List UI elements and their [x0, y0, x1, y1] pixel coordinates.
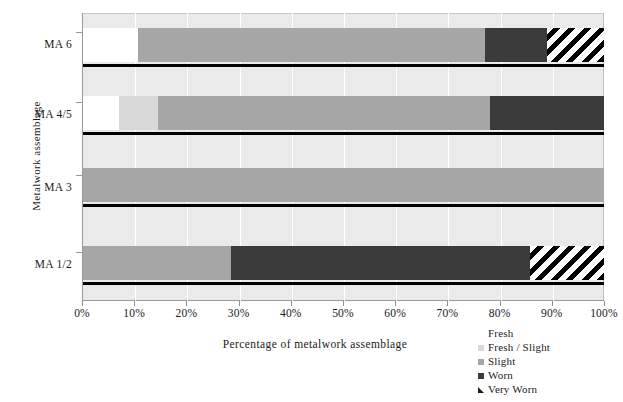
segment-worn — [490, 96, 604, 130]
segment-slight — [158, 96, 490, 130]
x-tick-mark-60 — [395, 301, 396, 306]
y-tick-label-ma-4-5: MA 4/5 — [0, 108, 72, 120]
y-tick-label-ma-1-2: MA 1/2 — [0, 258, 72, 270]
x-tick-label-90: 90% — [522, 307, 582, 319]
legend-item-fresh-slight: Fresh / Slight — [478, 341, 618, 355]
segment-fresh-slight — [119, 96, 158, 130]
segment-fresh — [83, 96, 119, 130]
y-tick-mark-ma-1-2 — [76, 252, 82, 253]
legend-item-fresh: Fresh — [478, 327, 618, 341]
x-tick-mark-10 — [134, 301, 135, 306]
x-tick-mark-50 — [343, 301, 344, 306]
legend-swatch-very-worn-icon — [478, 387, 484, 393]
legend-label-fresh: Fresh — [488, 327, 513, 339]
x-tick-label-30: 30% — [209, 307, 269, 319]
legend: Fresh Fresh / Slight Slight Worn Very Wo… — [478, 327, 618, 397]
x-tick-label-70: 70% — [417, 307, 477, 319]
y-axis-title: Metalwork assemblage — [30, 56, 42, 256]
legend-item-very-worn: Very Worn — [478, 383, 618, 397]
x-tick-label-50: 50% — [313, 307, 373, 319]
bar-ma-1-2 — [83, 246, 604, 280]
bar-ma-6 — [83, 28, 604, 62]
x-tick-mark-0 — [82, 301, 83, 306]
segment-slight — [138, 28, 486, 62]
plot-area — [82, 13, 604, 301]
segment-very-worn — [547, 28, 604, 62]
segment-worn — [485, 28, 546, 62]
baseline-ma-1-2 — [83, 282, 604, 285]
legend-item-worn: Worn — [478, 369, 618, 383]
legend-swatch-slight-icon — [478, 359, 484, 365]
stacked-bar-chart: Metalwork assemblage — [0, 0, 623, 402]
x-tick-mark-70 — [447, 301, 448, 306]
segment-slight — [83, 246, 231, 280]
y-tick-mark-ma-3 — [76, 175, 82, 176]
x-tick-mark-30 — [239, 301, 240, 306]
x-tick-mark-90 — [552, 301, 553, 306]
x-tick-mark-80 — [500, 301, 501, 306]
x-tick-mark-100 — [604, 301, 605, 306]
y-tick-label-ma-6: MA 6 — [0, 38, 72, 50]
legend-label-very-worn: Very Worn — [488, 383, 537, 395]
legend-swatch-fresh-icon — [478, 331, 484, 337]
legend-label-worn: Worn — [488, 369, 513, 381]
x-tick-label-100: 100% — [574, 307, 623, 319]
segment-fresh — [83, 28, 138, 62]
bar-ma-3 — [83, 168, 604, 202]
y-tick-label-ma-3: MA 3 — [0, 181, 72, 193]
x-tick-label-0: 0% — [52, 307, 112, 319]
x-tick-label-40: 40% — [261, 307, 321, 319]
bar-group-ma-3 — [83, 135, 604, 207]
segment-very-worn — [530, 246, 604, 280]
legend-item-slight: Slight — [478, 355, 618, 369]
x-axis-title: Percentage of metalwork assemblage — [150, 338, 480, 350]
segment-worn — [231, 246, 530, 280]
x-tick-label-10: 10% — [104, 307, 164, 319]
bar-ma-4-5 — [83, 96, 604, 130]
bar-group-ma-4-5 — [83, 67, 604, 139]
x-tick-label-20: 20% — [156, 307, 216, 319]
y-tick-mark-ma-6 — [76, 32, 82, 33]
x-tick-label-80: 80% — [470, 307, 530, 319]
bar-group-ma-1-2 — [83, 207, 604, 301]
x-tick-label-60: 60% — [365, 307, 425, 319]
x-tick-mark-40 — [291, 301, 292, 306]
legend-swatch-fresh-slight-icon — [478, 345, 484, 351]
y-tick-mark-ma-4-5 — [76, 102, 82, 103]
segment-slight — [83, 168, 604, 202]
legend-swatch-worn-icon — [478, 373, 484, 379]
legend-label-fresh-slight: Fresh / Slight — [488, 341, 550, 353]
x-tick-mark-20 — [186, 301, 187, 306]
legend-label-slight: Slight — [488, 355, 516, 367]
